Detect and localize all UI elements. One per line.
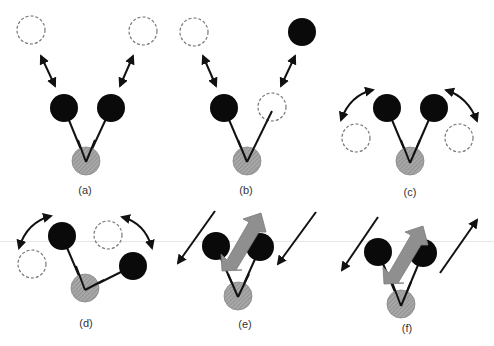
outer-atom-left (364, 238, 392, 266)
rock-arrow-right (446, 90, 477, 121)
panel-label-d: (d) (71, 317, 101, 329)
stretch-arrow-left (41, 56, 55, 86)
panel-label-b: (b) (231, 184, 261, 196)
panel-label-a: (a) (70, 184, 100, 196)
ghost-atom-left (342, 124, 370, 152)
outer-atom-right (420, 94, 448, 122)
panel-f (342, 217, 477, 318)
panel-b (180, 18, 316, 175)
outer-atom-right (119, 252, 147, 280)
ghost-atom-upper (94, 221, 122, 249)
outer-atom-left (373, 94, 401, 122)
rock-arrow-right (122, 217, 152, 248)
stretch-arrow-right (120, 56, 133, 86)
motion-arrow-right (440, 220, 477, 273)
motion-arrow-right (278, 212, 316, 264)
outer-atom-left (48, 222, 76, 250)
panel-label-e: (e) (230, 318, 260, 330)
rock-arrow-left (19, 216, 51, 248)
ghost-atom-left (17, 16, 45, 44)
outer-atom-left (202, 232, 230, 260)
outer-atom-left (50, 94, 78, 122)
ghost-atom-right (258, 93, 286, 121)
panel-a (17, 16, 157, 175)
vibration-modes-diagram (0, 0, 494, 346)
stretch-arrow-left (203, 56, 216, 86)
ghost-atom-right (129, 17, 157, 45)
panel-label-f: (f) (392, 322, 422, 334)
ghost-atom-lower (18, 250, 46, 278)
outer-atom-left (210, 94, 238, 122)
panel-label-c: (c) (395, 186, 425, 198)
ghost-atom-left (180, 18, 208, 46)
panel-c (341, 90, 477, 175)
outer-atom-displaced (288, 18, 316, 46)
panel-e (178, 211, 316, 310)
stretch-arrow-right (281, 56, 295, 86)
outer-atom-right (97, 94, 125, 122)
panel-d (18, 216, 152, 302)
ghost-atom-right (445, 124, 473, 152)
rock-arrow-left (341, 90, 373, 120)
